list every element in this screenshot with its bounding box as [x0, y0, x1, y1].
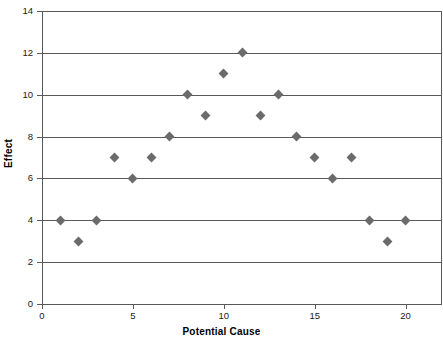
x-axis-line — [42, 304, 442, 305]
data-point — [292, 132, 302, 142]
plot-area — [42, 11, 442, 304]
x-axis-title: Potential Cause — [0, 326, 443, 337]
data-point — [55, 215, 65, 225]
x-tick-mark — [406, 304, 407, 309]
y-tick-mark — [37, 262, 42, 263]
scatter-chart: 02468101214 05101520 Potential Cause Eff… — [0, 0, 443, 346]
x-tick-mark — [315, 304, 316, 309]
data-point — [73, 236, 83, 246]
y-axis-line — [42, 11, 43, 305]
x-tick-label: 20 — [386, 311, 426, 321]
data-point — [92, 215, 102, 225]
data-point — [146, 153, 156, 163]
y-tick-mark — [37, 137, 42, 138]
y-axis-title: Effect — [3, 124, 14, 184]
data-point — [237, 48, 247, 58]
y-tick-mark — [37, 53, 42, 54]
data-point — [346, 153, 356, 163]
y-tick-label: 14 — [0, 6, 33, 16]
gridline-horizontal — [42, 262, 442, 263]
y-tick-mark — [37, 178, 42, 179]
y-tick-label: 2 — [0, 257, 33, 267]
x-tick-mark — [224, 304, 225, 309]
x-tick-label: 15 — [295, 311, 335, 321]
y-tick-label: 12 — [0, 48, 33, 58]
y-tick-label: 4 — [0, 215, 33, 225]
data-point — [183, 90, 193, 100]
x-tick-label: 10 — [204, 311, 244, 321]
y-tick-label: 0 — [0, 299, 33, 309]
data-point — [219, 69, 229, 79]
gridline-horizontal — [42, 220, 442, 221]
data-point — [128, 173, 138, 183]
data-point — [364, 215, 374, 225]
x-tick-mark — [133, 304, 134, 309]
x-tick-mark — [42, 304, 43, 309]
data-point — [164, 132, 174, 142]
y-tick-mark — [37, 95, 42, 96]
y-tick-label: 10 — [0, 90, 33, 100]
y-tick-mark — [37, 220, 42, 221]
gridline-horizontal — [42, 137, 442, 138]
x-tick-label: 0 — [22, 311, 62, 321]
gridline-horizontal — [42, 11, 442, 12]
data-point — [328, 173, 338, 183]
data-point — [310, 153, 320, 163]
plot-frame-right — [441, 11, 442, 305]
gridline-horizontal — [42, 178, 442, 179]
data-point — [273, 90, 283, 100]
x-tick-label: 5 — [113, 311, 153, 321]
data-point — [401, 215, 411, 225]
y-tick-mark — [37, 11, 42, 12]
data-point — [110, 153, 120, 163]
data-point — [255, 111, 265, 121]
data-point — [383, 236, 393, 246]
gridline-horizontal — [42, 95, 442, 96]
data-point — [201, 111, 211, 121]
